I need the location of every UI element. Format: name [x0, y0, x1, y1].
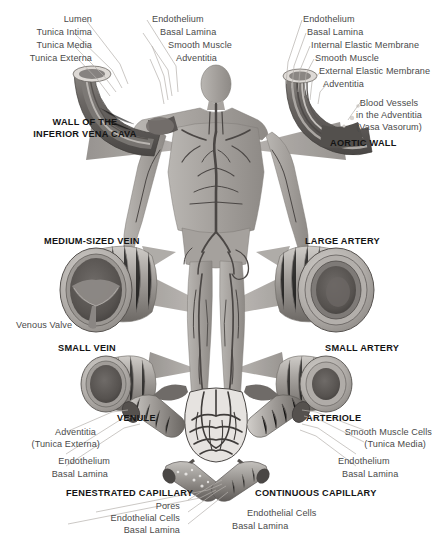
label-vc-basal-lamina: Basal Lamina: [160, 27, 216, 38]
label-lumen: Lumen: [0, 14, 92, 25]
label-ao-external-elastic-membrane: External Elastic Membrane: [319, 66, 430, 77]
label-ao-basal-lamina: Basal Lamina: [307, 27, 363, 38]
label-arteriole-endothelium: Endothelium: [338, 456, 390, 467]
label-fc-endothelial-cells: Endothelial Cells: [60, 513, 180, 524]
label-vc-smooth-muscle: Smooth Muscle: [168, 40, 232, 51]
label-fc-pores: Pores: [72, 501, 180, 512]
label-vc-endothelium: Endothelium: [152, 14, 204, 25]
label-ao-endothelium: Endothelium: [303, 14, 355, 25]
label-ao-internal-elastic-membrane: Internal Elastic Membrane: [311, 40, 419, 51]
medium-sized-vein-illustration: [60, 245, 157, 332]
label-vasa-vasorum-line3: (Vasa Vasorum): [346, 122, 432, 133]
label-ao-smooth-muscle: Smooth Muscle: [315, 53, 379, 64]
label-ao-adventitia: Adventitia: [323, 79, 364, 90]
title-aortic-wall: AORTIC WALL: [330, 138, 397, 149]
title-small-vein: SMALL VEIN: [58, 343, 116, 354]
title-fenestrated-capillary: FENESTRATED CAPILLARY: [66, 488, 193, 499]
title-medium-sized-vein: MEDIUM-SIZED VEIN: [44, 236, 140, 247]
label-cc-endothelial-cells: Endothelial Cells: [247, 508, 316, 519]
title-vena-cava-line1: WALL OF THE: [22, 117, 148, 128]
label-tunica-media: Tunica Media: [0, 40, 92, 51]
large-artery-illustration: [275, 245, 374, 332]
label-tunica-externa: Tunica Externa: [0, 53, 92, 64]
label-arteriole-tunica-media: (Tunica Media): [302, 439, 426, 450]
label-arteriole-smooth-muscle-cells: Smooth Muscle Cells: [302, 427, 432, 438]
title-small-artery: SMALL ARTERY: [325, 343, 399, 354]
label-vc-adventitia: Adventitia: [176, 53, 217, 64]
label-fc-basal-lamina: Basal Lamina: [64, 525, 180, 536]
title-venule: VENULE: [117, 413, 156, 424]
diagram-canvas: Lumen Tunica Intima Tunica Media Tunica …: [0, 0, 432, 536]
label-venule-endothelium: Endothelium: [0, 456, 110, 467]
label-venule-basal-lamina: Basal Lamina: [0, 469, 108, 480]
label-vasa-vasorum-line1: Blood Vessels: [346, 98, 432, 109]
title-large-artery: LARGE ARTERY: [305, 236, 380, 247]
label-tunica-intima: Tunica Intima: [0, 27, 92, 38]
label-cc-basal-lamina: Basal Lamina: [232, 521, 288, 532]
title-continuous-capillary: CONTINUOUS CAPILLARY: [255, 488, 377, 499]
label-venule-tunica-externa: (Tunica Externa): [0, 439, 100, 450]
label-vasa-vasorum-line2: in the Adventitia: [346, 110, 432, 121]
title-arteriole: ARTERIOLE: [306, 413, 361, 424]
label-venule-adventitia: Adventitia: [0, 427, 96, 438]
title-vena-cava-line2: INFERIOR VENA CAVA: [14, 129, 156, 140]
label-arteriole-basal-lamina: Basal Lamina: [342, 469, 398, 480]
label-venous-valve: Venous Valve: [16, 320, 72, 331]
